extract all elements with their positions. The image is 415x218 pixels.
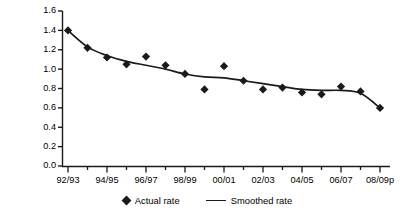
y-axis-tick-label: 0.6 [30, 103, 56, 112]
y-axis-tick-label: 1.0 [30, 65, 56, 74]
y-axis-tick-label: 0.2 [30, 142, 56, 151]
legend-item-actual-rate: Actual rate [123, 195, 180, 206]
y-axis-tick-label: 1.6 [30, 6, 56, 15]
data-point-marker [181, 70, 189, 78]
plot-area [0, 0, 415, 218]
line-marker-icon [206, 200, 226, 201]
legend-label-smoothed-rate: Smoothed rate [231, 195, 293, 206]
y-axis-tick-label: 0.4 [30, 123, 56, 132]
y-axis-tick-label: 0.8 [30, 84, 56, 93]
chart-container: Rate per 100,000 0.00.20.40.60.81.01.21.… [0, 0, 415, 218]
actual-rate-points [64, 26, 384, 112]
y-axis-tick-label: 1.2 [30, 45, 56, 54]
x-axis-ticks [68, 167, 380, 173]
data-point-marker [317, 90, 325, 98]
legend-item-smoothed-rate: Smoothed rate [206, 195, 293, 206]
legend-label-actual-rate: Actual rate [135, 195, 180, 206]
data-point-marker [200, 85, 208, 93]
y-axis-tick-label: 0.0 [30, 161, 56, 170]
diamond-marker-icon [121, 195, 131, 205]
data-point-marker [337, 82, 345, 90]
y-axis-tick-label: 1.4 [30, 26, 56, 35]
data-point-marker [278, 83, 286, 91]
data-point-marker [259, 85, 267, 93]
chart-legend: Actual rate Smoothed rate [0, 192, 415, 208]
data-point-marker [239, 77, 247, 85]
data-point-marker [220, 62, 228, 70]
x-axis-tick-label: 08/09p [352, 176, 408, 185]
data-point-marker [142, 52, 150, 60]
